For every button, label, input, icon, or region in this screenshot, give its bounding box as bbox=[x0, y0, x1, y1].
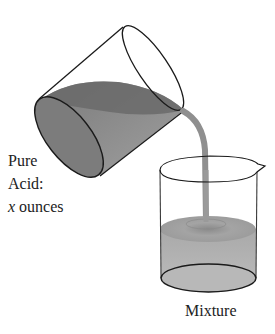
acid-stream bbox=[183, 111, 206, 222]
source-label-line1: Pure bbox=[8, 152, 37, 170]
mixture-beaker-wall-left bbox=[160, 170, 161, 278]
mixture-beaker bbox=[160, 156, 265, 292]
source-unit: ounces bbox=[15, 198, 63, 215]
mixture-beaker-base bbox=[161, 264, 256, 292]
mixture-beaker-rim bbox=[160, 156, 265, 182]
mixture-beaker-wall-right bbox=[256, 172, 257, 278]
source-label-line2: Acid: bbox=[8, 175, 44, 193]
source-beaker bbox=[22, 18, 193, 188]
target-label: Mixture bbox=[185, 302, 237, 320]
pouring-diagram bbox=[0, 0, 275, 334]
source-label-amount: x ounces bbox=[8, 198, 64, 216]
